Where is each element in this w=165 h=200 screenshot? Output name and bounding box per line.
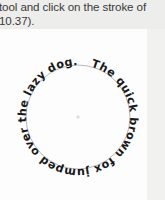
circular-text-object[interactable]: The quick brown fox jumped over the lazy… [0,29,165,200]
caption-line-2: 10.37). [0,14,34,27]
caption-line-1: tool and click on the stroke of [0,0,146,13]
center-mark-icon [76,115,80,119]
instruction-caption: tool and click on the stroke of 10.37). [0,0,165,29]
circle-text-label: The quick brown fox jumped over the lazy… [0,29,140,179]
page-root: tool and click on the stroke of 10.37). … [0,0,165,200]
